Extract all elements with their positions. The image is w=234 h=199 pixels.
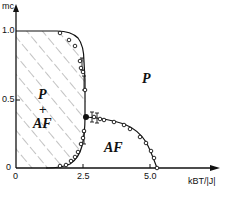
y-tick-label-0: 0 [6, 163, 11, 172]
y-tick-label-1.0: 1.0 [2, 26, 15, 35]
y-axis-label: mc [2, 2, 14, 11]
region-label-af: AF [104, 141, 123, 155]
x-tick-label-0: 0 [13, 172, 18, 181]
hatched-fill [16, 31, 86, 168]
region-label-af-mixed: AF [33, 117, 52, 131]
multicritical-point [83, 114, 89, 120]
region-label-p-mixed: P [38, 88, 47, 102]
x-tick-label-2.5: 2.5 [77, 172, 90, 181]
x-tick-label-5.0: 5.0 [144, 172, 157, 181]
region-label-p: P [142, 72, 151, 86]
phase-diagram [0, 0, 234, 199]
region-label-plus: + [39, 103, 47, 116]
x-axis-arrow-icon [210, 165, 220, 171]
y-tick-label-0.5: 0.5 [2, 95, 15, 104]
x-axis-label: kBT/|J| [188, 177, 216, 186]
